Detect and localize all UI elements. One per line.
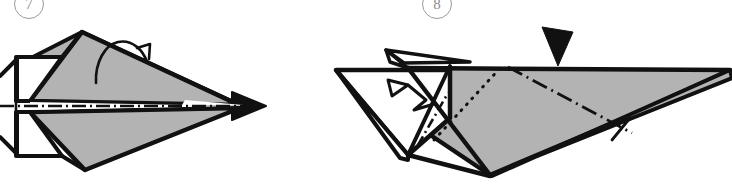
lower-wing-face (30, 108, 240, 170)
push-arrow (542, 27, 573, 66)
main-body-face (408, 68, 730, 175)
tail-edge-lower (0, 137, 16, 153)
diagram-step-8 (330, 0, 732, 194)
diagram-step-7 (0, 0, 300, 194)
tail-edge-upper (0, 60, 16, 76)
instruction-sheet: 7 8 (0, 0, 732, 194)
